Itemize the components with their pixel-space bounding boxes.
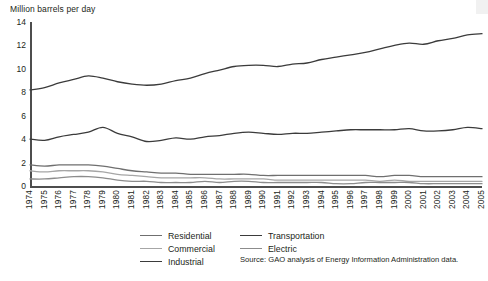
legend-item-transportation[interactable]: Transportation: [240, 229, 360, 242]
legend-swatch-icon: [240, 248, 262, 249]
legend-column-left: ResidentialCommercialIndustrial: [140, 229, 232, 268]
legend-swatch-icon: [140, 261, 162, 262]
legend-label: Commercial: [168, 244, 215, 254]
page-corner-mark: [476, 0, 488, 14]
legend-label: Electric: [268, 244, 297, 254]
source-note: Source: GAO analysis of Energy Informati…: [240, 255, 458, 264]
legend-label: Transportation: [268, 231, 324, 241]
legend-item-industrial[interactable]: Industrial: [140, 255, 232, 268]
legend-swatch-icon: [240, 235, 262, 236]
legend-swatch-icon: [140, 235, 162, 236]
legend-item-commercial[interactable]: Commercial: [140, 242, 232, 255]
legend-label: Residential: [168, 231, 212, 241]
legend-swatch-icon: [140, 248, 162, 249]
legend-item-electric[interactable]: Electric: [240, 242, 360, 255]
legend-column-right: TransportationElectric: [240, 229, 360, 255]
series-line-electric: [30, 176, 482, 183]
chart-container: Million barrels per day 02468101214 1974…: [0, 0, 488, 281]
series-line-industrial: [30, 127, 482, 141]
legend-item-residential[interactable]: Residential: [140, 229, 232, 242]
series-line-transportation: [30, 34, 482, 90]
legend-label: Industrial: [168, 257, 204, 267]
